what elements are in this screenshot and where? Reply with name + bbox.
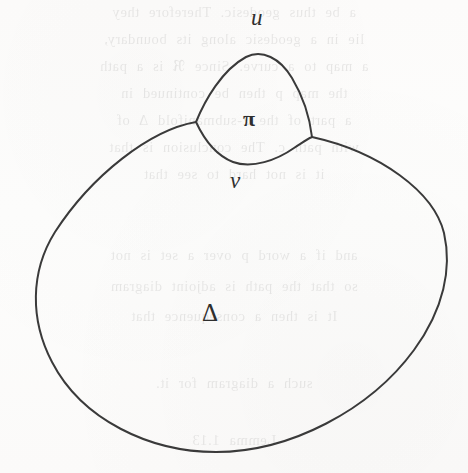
vertex-label-u: u xyxy=(251,6,263,29)
diagram-drawing xyxy=(0,0,468,473)
outer-boundary-curve xyxy=(36,122,447,452)
figure-page: a be thus geodesic. Therefore they lie i… xyxy=(0,0,468,473)
region-label-pi: π xyxy=(243,108,255,130)
vertex-label-v: v xyxy=(230,169,240,192)
region-label-delta: Δ xyxy=(202,300,218,325)
